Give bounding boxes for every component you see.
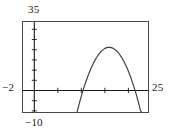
- y-min-label: −10: [25, 117, 43, 128]
- y-max-label: 35: [28, 4, 39, 15]
- parabola-graph-figure: 35 −10 −2 25: [0, 0, 173, 137]
- x-min-label: −2: [2, 82, 14, 93]
- parabola-curve: [77, 47, 144, 113]
- plot-canvas: [23, 22, 149, 113]
- plot-frame: [22, 21, 149, 113]
- x-max-label: 25: [152, 82, 163, 93]
